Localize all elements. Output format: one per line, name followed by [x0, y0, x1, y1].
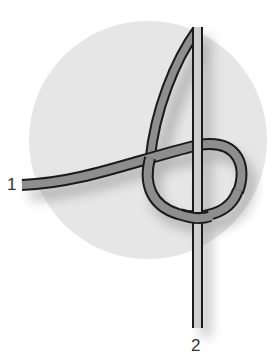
end-label-2: 2: [191, 336, 200, 356]
end-label-1: 1: [7, 175, 16, 195]
knot-diagram: [0, 0, 279, 361]
